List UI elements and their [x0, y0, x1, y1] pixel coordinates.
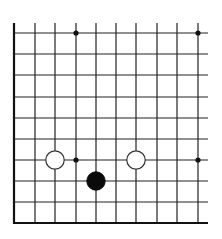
- star-point-icon: [73, 157, 78, 162]
- black-stone[interactable]: [87, 172, 105, 190]
- white-stone[interactable]: [127, 151, 145, 169]
- white-stone[interactable]: [46, 151, 64, 169]
- go-board[interactable]: [0, 0, 222, 239]
- star-point-icon: [195, 157, 200, 162]
- star-point-icon: [73, 30, 78, 35]
- board-grid: [13, 23, 208, 224]
- star-point-icon: [195, 30, 200, 35]
